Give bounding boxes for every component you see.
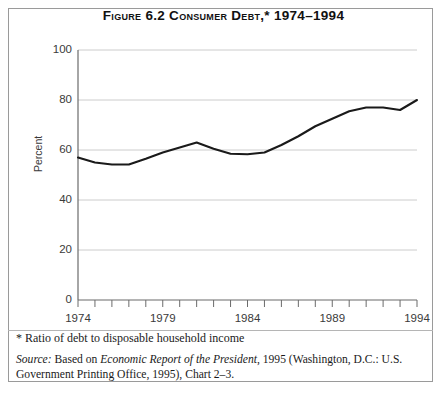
y-tick-label-100: 100 (38, 43, 72, 55)
x-tick-label-1974: 1974 (48, 312, 108, 324)
y-axis-title: Percent (32, 156, 44, 172)
x-tick-label-1984: 1984 (218, 312, 278, 324)
source-text-1: Based on (52, 353, 101, 366)
source-note: Source: Based on Economic Report of the … (16, 352, 424, 383)
y-tick-label-20: 20 (38, 243, 72, 255)
source-prefix: Source: (16, 353, 52, 366)
footnote-text: * Ratio of debt to disposable household … (16, 330, 421, 346)
source-title-italic: Economic Report of the President (100, 353, 257, 366)
figure-title: Figure 6.2 Consumer Debt,* 1974–1994 (0, 8, 447, 23)
x-tick-label-1994: 1994 (387, 312, 447, 324)
x-tick-label-1989: 1989 (302, 312, 362, 324)
y-tick-label-80: 80 (38, 93, 72, 105)
y-tick-label-40: 40 (38, 193, 72, 205)
y-tick-label-0: 0 (38, 293, 72, 305)
x-tick-label-1979: 1979 (133, 312, 193, 324)
